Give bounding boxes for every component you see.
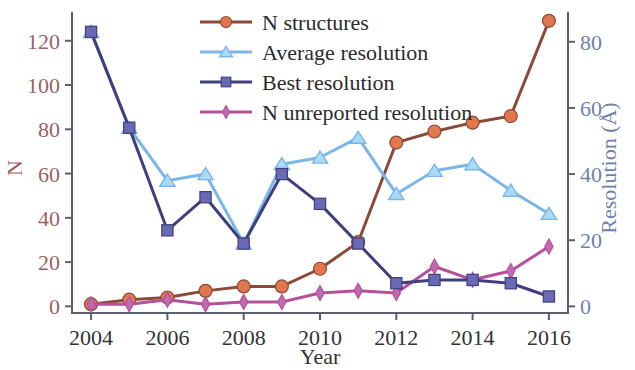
marker-square [200, 192, 211, 203]
marker-diamond [354, 283, 362, 298]
marker-diamond [545, 239, 553, 254]
marker-diamond [430, 259, 438, 274]
chart-legend: N structuresAverage resolutionBest resol… [200, 10, 472, 125]
y-tick-label-left: 0 [49, 294, 60, 319]
marker-diamond [316, 286, 324, 301]
marker-diamond [222, 106, 229, 119]
x-tick-label: 2014 [451, 325, 495, 350]
y-axis-title-right: Resolution (Å) [596, 102, 621, 233]
marker-square [314, 198, 325, 209]
marker-circle [275, 280, 288, 293]
marker-diamond [201, 297, 209, 312]
legend-label: N unreported resolution [262, 100, 472, 125]
x-tick-label: 2012 [374, 325, 418, 350]
y-tick-label-left: 20 [38, 250, 60, 275]
y-tick-label-left: 80 [38, 117, 60, 142]
y-tick-label-left: 60 [38, 162, 60, 187]
marker-square [543, 291, 554, 302]
y-tick-label-left: 100 [27, 73, 60, 98]
y-axis-title-left: N [2, 160, 27, 176]
legend-item-1: Average resolution [200, 40, 428, 65]
y-tick-label-right: 80 [580, 30, 602, 55]
marker-circle [390, 136, 403, 149]
x-tick-label: 2006 [145, 325, 189, 350]
marker-square [505, 278, 516, 289]
marker-diamond [240, 294, 248, 309]
marker-square [467, 274, 478, 285]
legend-item-2: Best resolution [200, 70, 395, 95]
legend-item-0: N structures [200, 10, 369, 35]
marker-square [124, 122, 135, 133]
y-tick-label-right: 0 [580, 294, 591, 319]
x-tick-label: 2004 [69, 325, 113, 350]
legend-label: N structures [262, 10, 369, 35]
marker-circle [314, 262, 327, 275]
marker-square [429, 274, 440, 285]
marker-triangle [351, 131, 366, 143]
marker-circle [428, 125, 441, 138]
marker-diamond [278, 294, 286, 309]
marker-circle [542, 14, 555, 27]
line-chart: 0204060801001200204060802004200620082010… [0, 0, 635, 370]
marker-square [221, 77, 231, 87]
marker-square [162, 225, 173, 236]
marker-square [391, 278, 402, 289]
marker-square [276, 168, 287, 179]
x-tick-label: 2016 [527, 325, 571, 350]
marker-circle [237, 280, 250, 293]
marker-square [85, 26, 96, 37]
y-tick-label-left: 40 [38, 206, 60, 231]
legend-item-3: N unreported resolution [200, 100, 472, 125]
marker-circle [220, 16, 231, 27]
chart-figure: 0204060801001200204060802004200620082010… [0, 0, 635, 370]
y-tick-label-left: 120 [27, 29, 60, 54]
marker-square [353, 238, 364, 249]
legend-label: Best resolution [262, 70, 395, 95]
marker-diamond [507, 263, 515, 278]
marker-square [238, 238, 249, 249]
legend-label: Average resolution [262, 40, 428, 65]
marker-circle [504, 110, 517, 123]
x-axis-title: Year [300, 344, 341, 369]
x-tick-label: 2008 [222, 325, 266, 350]
